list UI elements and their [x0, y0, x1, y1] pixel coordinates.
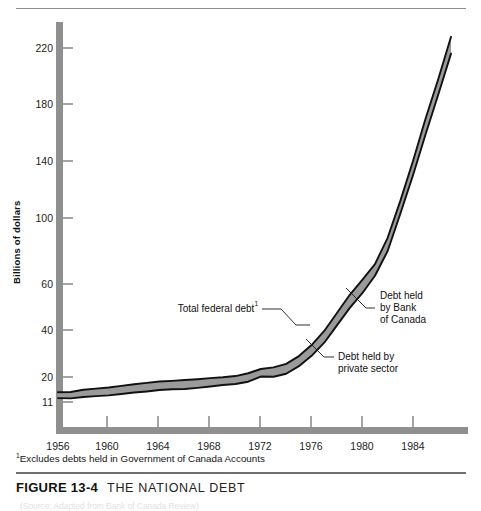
- figure-footnote: 1Excludes debts held in Government of Ca…: [16, 452, 265, 464]
- x-tick-label-1972: 1972: [248, 440, 272, 452]
- y-tick-label-140: 140: [35, 155, 53, 167]
- annotation-bank-line-1: Debt held: [380, 290, 423, 301]
- x-tick-label-1976: 1976: [299, 440, 323, 452]
- annotation-private-line-1: Debt held by: [338, 351, 394, 362]
- annotation-bank-line-2: by Bank: [380, 302, 417, 313]
- x-tick-label-1956: 1956: [46, 440, 70, 452]
- x-tick-label-1960: 1960: [95, 440, 119, 452]
- annotation-bank-line-3: of Canada: [380, 314, 427, 325]
- debt-band-area: [58, 37, 451, 399]
- y-axis-ticks: 220 180 140 100 60 40 20 11: [35, 42, 73, 408]
- x-tick-label-1980: 1980: [350, 440, 374, 452]
- caption-divider-rule: [16, 472, 466, 474]
- y-tick-label-60: 60: [41, 278, 53, 290]
- y-tick-label-220: 220: [35, 42, 53, 54]
- chart-plot-area: 220 180 140 100 60 40 20 11: [0, 0, 481, 470]
- figure-number: FIGURE 13-4: [16, 480, 98, 495]
- y-axis-title: Billions of dollars: [11, 200, 22, 284]
- y-tick-label-20: 20: [41, 371, 53, 383]
- x-tick-label-1984: 1984: [401, 440, 425, 452]
- y-tick-label-11: 11: [42, 396, 53, 408]
- y-axis-bar: [56, 22, 63, 434]
- national-debt-area-chart: 220 180 140 100 60 40 20 11: [0, 0, 481, 470]
- y-tick-label-40: 40: [41, 324, 53, 336]
- annotation-total-federal-debt-superscript: 1: [254, 300, 258, 307]
- total-federal-debt-line: [58, 37, 451, 392]
- figure-caption: FIGURE 13-4 THE NATIONAL DEBT: [16, 480, 245, 495]
- y-tick-label-100: 100: [35, 212, 53, 224]
- footnote-text: Excludes debts held in Government of Can…: [20, 453, 265, 464]
- x-tick-label-1964: 1964: [146, 440, 170, 452]
- annotation-total-federal-debt: Total federal debt1: [178, 300, 310, 326]
- x-axis-bar: [56, 427, 468, 434]
- figure-source: (Source: Adapted from Bank of Canada Rev…: [20, 501, 199, 511]
- annotation-private-line-2: private sector: [338, 363, 399, 374]
- annotation-total-federal-debt-label: Total federal debt: [178, 303, 255, 314]
- svg-text:Total federal debt1: Total federal debt1: [178, 300, 259, 315]
- x-tick-label-1968: 1968: [197, 440, 221, 452]
- y-tick-label-180: 180: [35, 98, 53, 110]
- figure-title: THE NATIONAL DEBT: [107, 481, 245, 495]
